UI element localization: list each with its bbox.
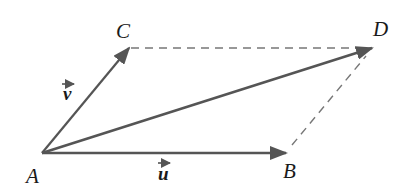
- vector-label-v: v: [63, 83, 72, 104]
- parallelogram-diagram: A B C D v u: [0, 0, 414, 195]
- vector-label-u: u: [158, 163, 169, 184]
- point-label-b: B: [283, 159, 296, 183]
- vector-label-v-group: v: [62, 83, 74, 104]
- point-label-c: C: [116, 19, 131, 43]
- diagonal-ad-arrow: [42, 48, 372, 153]
- point-label-d: D: [372, 17, 388, 41]
- point-label-a: A: [24, 164, 39, 188]
- vector-label-u-group: u: [158, 163, 170, 184]
- vector-v-arrow: [42, 48, 129, 153]
